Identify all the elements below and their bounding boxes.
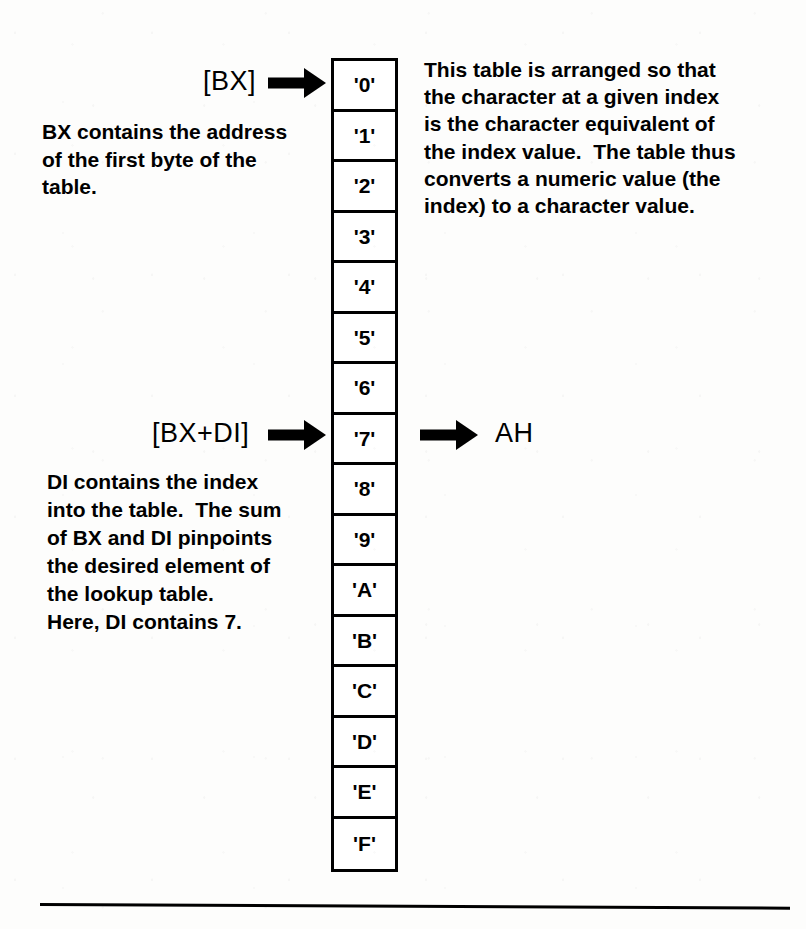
annotation-di-description: DI contains the index into the table. Th…	[47, 468, 282, 636]
table-cell-selected: '7'	[334, 415, 395, 466]
horizontal-rule	[40, 903, 790, 910]
table-cell: '0'	[334, 61, 395, 112]
destination-register-label: AH	[495, 420, 534, 447]
table-cell: '9'	[334, 516, 395, 567]
arrow-shaft	[268, 78, 308, 89]
pointer-label-bx: [BX]	[203, 68, 256, 95]
table-cell: '4'	[334, 263, 395, 314]
table-cell: 'C'	[334, 667, 395, 718]
table-cell: '2'	[334, 162, 395, 213]
table-cell: 'B'	[334, 617, 395, 668]
arrow-head	[456, 420, 478, 450]
right-arrow-icon	[420, 419, 478, 451]
table-cell: '3'	[334, 213, 395, 264]
table-cell: '6'	[334, 364, 395, 415]
annotation-table-description: This table is arranged so that the chara…	[424, 56, 736, 219]
table-cell: '1'	[334, 112, 395, 163]
table-cell: '5'	[334, 314, 395, 365]
right-arrow-icon	[268, 67, 326, 99]
arrow-head	[304, 68, 326, 98]
lookup-table: '0' '1' '2' '3' '4' '5' '6' '7' '8' '9' …	[331, 58, 398, 872]
table-cell: 'E'	[334, 768, 395, 819]
right-arrow-icon	[268, 419, 326, 451]
arrow-shaft	[420, 430, 460, 441]
arrow-shaft	[268, 430, 308, 441]
table-cell: 'F'	[334, 819, 395, 870]
annotation-bx-description: BX contains the address of the first byt…	[42, 118, 287, 201]
diagram-page: '0' '1' '2' '3' '4' '5' '6' '7' '8' '9' …	[0, 0, 806, 929]
arrow-head	[304, 420, 326, 450]
table-cell: 'D'	[334, 718, 395, 769]
table-cell: 'A'	[334, 566, 395, 617]
table-cell: '8'	[334, 465, 395, 516]
pointer-label-bx-di: [BX+DI]	[152, 420, 249, 447]
